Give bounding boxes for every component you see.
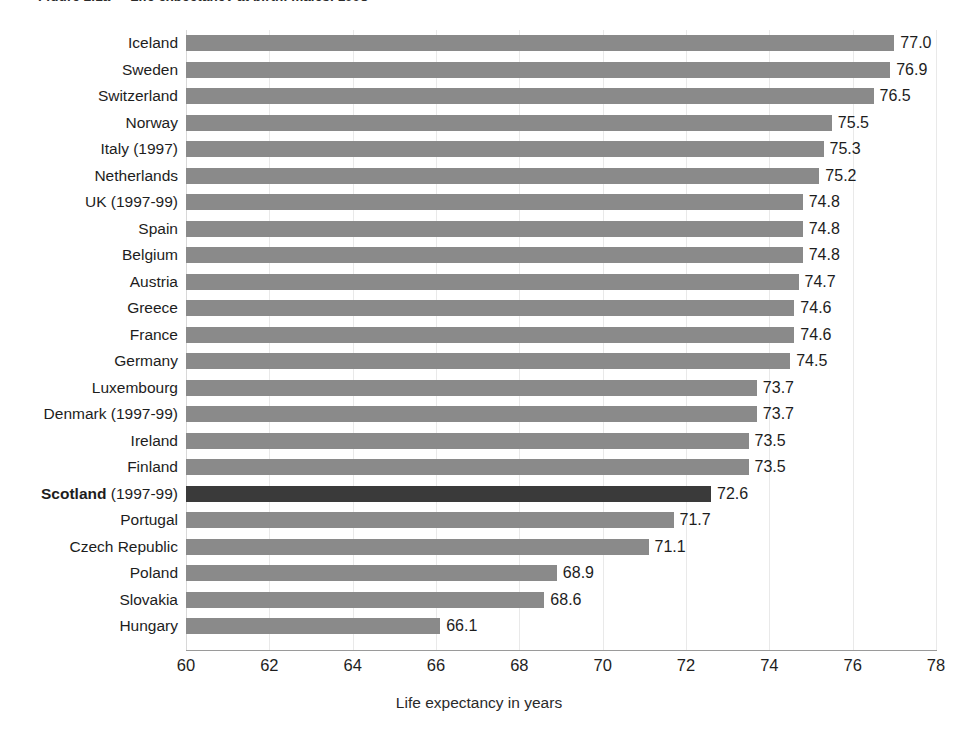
- bar[interactable]: [186, 168, 819, 184]
- category-label: Austria: [0, 269, 178, 296]
- bar-row: Spain74.8: [0, 216, 958, 243]
- bar-value-label: 74.8: [809, 242, 840, 269]
- bar[interactable]: [186, 88, 874, 104]
- category-label-suffix: (1997-99): [106, 485, 178, 502]
- category-label: Hungary: [0, 613, 178, 640]
- category-label: Czech Republic: [0, 534, 178, 561]
- bar-row: Slovakia68.6: [0, 587, 958, 614]
- x-tick-label-74: 74: [739, 656, 799, 675]
- bar-value-label: 72.6: [717, 481, 748, 508]
- category-label: Poland: [0, 560, 178, 587]
- bar-row: Greece74.6: [0, 295, 958, 322]
- bar-value-label: 74.6: [800, 295, 831, 322]
- bar-row: Scotland (1997-99)72.6: [0, 481, 958, 508]
- category-label-emphasis: Scotland: [41, 485, 106, 502]
- x-axis-title: Life expectancy in years: [0, 694, 958, 712]
- category-label: Denmark (1997-99): [0, 401, 178, 428]
- bar-value-label: 74.5: [796, 348, 827, 375]
- bar[interactable]: [186, 459, 749, 475]
- bar[interactable]: [186, 539, 649, 555]
- category-label: Germany: [0, 348, 178, 375]
- category-label: Netherlands: [0, 163, 178, 190]
- bar-value-label: 77.0: [900, 30, 931, 57]
- bar-row: Poland68.9: [0, 560, 958, 587]
- bar-row: Portugal71.7: [0, 507, 958, 534]
- bar-row: Czech Republic71.1: [0, 534, 958, 561]
- bar-value-label: 73.7: [763, 401, 794, 428]
- bar[interactable]: [186, 35, 894, 51]
- bar-row: Ireland73.5: [0, 428, 958, 455]
- bar[interactable]: [186, 565, 557, 581]
- bar[interactable]: [186, 62, 890, 78]
- bar-row: Belgium74.8: [0, 242, 958, 269]
- bar[interactable]: [186, 592, 544, 608]
- bar[interactable]: [186, 512, 674, 528]
- bar-row: Iceland77.0: [0, 30, 958, 57]
- category-label: Belgium: [0, 242, 178, 269]
- bar[interactable]: [186, 618, 440, 634]
- category-label: Norway: [0, 110, 178, 137]
- category-label: Italy (1997): [0, 136, 178, 163]
- x-axis-line: [186, 650, 937, 651]
- bar-value-label: 74.6: [800, 322, 831, 349]
- category-label: Finland: [0, 454, 178, 481]
- bar-value-label: 75.2: [825, 163, 856, 190]
- bar-row: Italy (1997)75.3: [0, 136, 958, 163]
- category-label: Ireland: [0, 428, 178, 455]
- bar[interactable]: [186, 274, 799, 290]
- bar-value-label: 66.1: [446, 613, 477, 640]
- bar[interactable]: [186, 194, 803, 210]
- bar-row: Luxembourg73.7: [0, 375, 958, 402]
- bar-row: Netherlands75.2: [0, 163, 958, 190]
- bar[interactable]: [186, 406, 757, 422]
- bar[interactable]: [186, 327, 794, 343]
- bar-value-label: 71.1: [655, 534, 686, 561]
- category-label: Portugal: [0, 507, 178, 534]
- category-label: France: [0, 322, 178, 349]
- bar-value-label: 74.7: [805, 269, 836, 296]
- bar-value-label: 74.8: [809, 189, 840, 216]
- bar-chart: Iceland77.0Sweden76.9Switzerland76.5Norw…: [0, 0, 958, 735]
- bar[interactable]: [186, 247, 803, 263]
- bar[interactable]: [186, 380, 757, 396]
- category-label: Slovakia: [0, 587, 178, 614]
- category-label: UK (1997-99): [0, 189, 178, 216]
- x-tick-label-60: 60: [156, 656, 216, 675]
- bar-value-label: 68.9: [563, 560, 594, 587]
- category-label: Sweden: [0, 57, 178, 84]
- bar[interactable]: [186, 221, 803, 237]
- bar-row: Finland73.5: [0, 454, 958, 481]
- bar-row: Sweden76.9: [0, 57, 958, 84]
- category-label: Spain: [0, 216, 178, 243]
- bar[interactable]: [186, 433, 749, 449]
- category-label: Scotland (1997-99): [0, 481, 178, 508]
- bar-row: France74.6: [0, 322, 958, 349]
- bar-value-label: 75.5: [838, 110, 869, 137]
- x-tick-label-66: 66: [406, 656, 466, 675]
- x-tick-label-78: 78: [906, 656, 958, 675]
- bar-value-label: 73.7: [763, 375, 794, 402]
- bar-row: Denmark (1997-99)73.7: [0, 401, 958, 428]
- bar-value-label: 73.5: [755, 454, 786, 481]
- bar-row: UK (1997-99)74.8: [0, 189, 958, 216]
- bar-value-label: 76.5: [880, 83, 911, 110]
- bar[interactable]: [186, 486, 711, 502]
- bar[interactable]: [186, 141, 824, 157]
- bar-value-label: 76.9: [896, 57, 927, 84]
- bar-row: Norway75.5: [0, 110, 958, 137]
- bar-value-label: 71.7: [680, 507, 711, 534]
- x-tick-label-72: 72: [656, 656, 716, 675]
- bar[interactable]: [186, 300, 794, 316]
- category-label: Greece: [0, 295, 178, 322]
- bar[interactable]: [186, 115, 832, 131]
- x-tick-label-68: 68: [489, 656, 549, 675]
- x-tick-label-64: 64: [323, 656, 383, 675]
- category-label: Luxembourg: [0, 375, 178, 402]
- category-label: Iceland: [0, 30, 178, 57]
- x-tick-label-62: 62: [239, 656, 299, 675]
- category-label: Switzerland: [0, 83, 178, 110]
- bar[interactable]: [186, 353, 790, 369]
- bar-row: Hungary66.1: [0, 613, 958, 640]
- bar-value-label: 75.3: [830, 136, 861, 163]
- bar-value-label: 74.8: [809, 216, 840, 243]
